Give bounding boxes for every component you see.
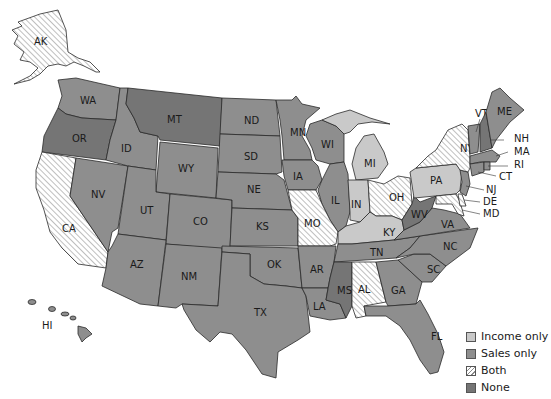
label-AZ: AZ bbox=[130, 259, 144, 270]
label-WA: WA bbox=[80, 95, 96, 106]
label-MS: MS bbox=[337, 285, 352, 296]
legend-item-none: None bbox=[466, 379, 551, 396]
state-CT[interactable] bbox=[470, 162, 484, 176]
state-VT[interactable] bbox=[468, 124, 480, 154]
label-OH: OH bbox=[389, 192, 404, 203]
label-OR: OR bbox=[72, 133, 87, 144]
label-FL: FL bbox=[431, 331, 443, 342]
map-legend: Income only Sales only Both None bbox=[466, 328, 551, 396]
state-AK[interactable] bbox=[12, 10, 100, 84]
legend-item-income-only: Income only bbox=[466, 328, 551, 345]
label-NH: NH bbox=[514, 133, 529, 144]
label-ME: ME bbox=[497, 106, 512, 117]
label-NV: NV bbox=[91, 189, 105, 200]
label-RI: RI bbox=[514, 159, 524, 170]
swatch-none bbox=[466, 383, 476, 393]
label-WV: WV bbox=[411, 209, 428, 220]
label-AL: AL bbox=[358, 284, 371, 295]
label-IL: IL bbox=[331, 195, 340, 206]
legend-label: None bbox=[481, 381, 510, 394]
label-MO: MO bbox=[304, 218, 321, 229]
label-KY: KY bbox=[383, 227, 396, 238]
label-AR: AR bbox=[310, 264, 324, 275]
label-ID: ID bbox=[121, 143, 132, 154]
label-SC: SC bbox=[427, 264, 440, 275]
label-GA: GA bbox=[391, 285, 406, 296]
legend-item-both: Both bbox=[466, 362, 551, 379]
legend-item-sales-only: Sales only bbox=[466, 345, 551, 362]
label-MN: MN bbox=[290, 127, 306, 138]
label-NE: NE bbox=[247, 184, 261, 195]
legend-label: Sales only bbox=[481, 347, 537, 360]
swatch-sales-only bbox=[466, 349, 476, 359]
label-SD: SD bbox=[244, 151, 258, 162]
legend-label: Both bbox=[481, 364, 507, 377]
swatch-both bbox=[466, 366, 476, 376]
label-KS: KS bbox=[256, 221, 269, 232]
label-MD: MD bbox=[483, 208, 500, 219]
state-HI[interactable] bbox=[28, 300, 92, 343]
label-OK: OK bbox=[267, 259, 282, 270]
label-DE: DE bbox=[483, 196, 497, 207]
label-AK: AK bbox=[34, 36, 48, 47]
label-NM: NM bbox=[181, 271, 197, 282]
legend-label: Income only bbox=[481, 330, 548, 343]
label-ND: ND bbox=[244, 115, 259, 126]
label-MT: MT bbox=[167, 114, 183, 125]
label-WI: WI bbox=[321, 139, 334, 150]
label-IN: IN bbox=[351, 199, 361, 210]
state-AZ[interactable] bbox=[102, 234, 166, 306]
label-PA: PA bbox=[430, 175, 442, 186]
label-UT: UT bbox=[140, 205, 154, 216]
label-NJ: NJ bbox=[486, 184, 496, 195]
label-CA: CA bbox=[62, 223, 76, 234]
swatch-income-only bbox=[466, 332, 476, 342]
label-MI: MI bbox=[364, 158, 376, 169]
label-WY: WY bbox=[178, 163, 195, 174]
label-HI: HI bbox=[42, 320, 52, 331]
label-LA: LA bbox=[313, 301, 326, 312]
label-IA: IA bbox=[293, 171, 303, 182]
label-TN: TN bbox=[369, 247, 384, 258]
label-CO: CO bbox=[193, 216, 208, 227]
state-NJ[interactable] bbox=[460, 170, 470, 196]
label-VA: VA bbox=[441, 219, 454, 230]
label-TX: TX bbox=[253, 307, 267, 318]
label-NC: NC bbox=[443, 241, 457, 252]
label-MA: MA bbox=[514, 146, 530, 157]
label-CT: CT bbox=[499, 171, 513, 182]
